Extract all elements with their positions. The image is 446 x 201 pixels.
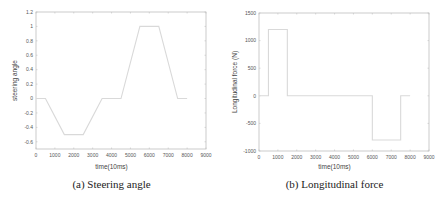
figure-caption-a: (a) Steering angle <box>0 178 223 190</box>
x-tick-label: 5000 <box>348 154 359 160</box>
y-tick-label: 1500 <box>245 10 256 16</box>
x-tick-label: 0 <box>258 154 261 160</box>
x-tick-label: 3000 <box>310 154 321 160</box>
y-tick-label: 1.2 <box>26 9 33 15</box>
x-tick-label: 4000 <box>329 154 340 160</box>
x-tick-label: 8000 <box>405 154 416 160</box>
y-tick-label: -0.6 <box>24 139 33 145</box>
x-tick-label: 2000 <box>291 154 302 160</box>
x-tick-label: 9000 <box>423 154 434 160</box>
chart-panel-steering-angle: 0100020003000400050006000700080009000-0.… <box>0 0 223 201</box>
y-tick-label: 0.4 <box>26 66 33 72</box>
y-axis-label: steering angle <box>11 60 19 101</box>
x-tick-label: 1000 <box>49 152 60 158</box>
x-tick-label: 1000 <box>272 154 283 160</box>
y-axis-label: Longitudinal force (N) <box>231 51 239 113</box>
x-axis-label: time(10ms) <box>223 163 446 170</box>
y-tick-label: 0 <box>30 95 33 101</box>
longitudinal-force-plot: 0100020003000400050006000700080009000-10… <box>223 0 446 201</box>
y-tick-label: -0.2 <box>24 110 33 116</box>
figure-caption-b: (b) Longitudinal force <box>223 178 446 190</box>
chart-panel-longitudinal-force: 0100020003000400050006000700080009000-10… <box>223 0 446 201</box>
data-series-line <box>36 26 187 134</box>
y-tick-label: 0 <box>253 93 256 99</box>
y-tick-label: 500 <box>248 65 257 71</box>
steering-angle-plot: 0100020003000400050006000700080009000-0.… <box>0 0 223 201</box>
y-tick-label: 0.6 <box>26 52 33 58</box>
x-tick-label: 2000 <box>68 152 79 158</box>
x-tick-label: 5000 <box>125 152 136 158</box>
x-tick-label: 4000 <box>106 152 117 158</box>
y-tick-label: 0.2 <box>26 81 33 87</box>
x-tick-label: 7000 <box>386 154 397 160</box>
plot-frame <box>259 13 429 151</box>
x-tick-label: 6000 <box>367 154 378 160</box>
x-tick-label: 6000 <box>144 152 155 158</box>
data-series-line <box>259 30 410 140</box>
y-tick-label: 1000 <box>245 37 256 43</box>
x-tick-label: 0 <box>35 152 38 158</box>
y-tick-label: -500 <box>246 120 256 126</box>
y-tick-label: -0.4 <box>24 124 33 130</box>
x-axis-label: time(10ms) <box>0 163 223 170</box>
y-tick-label: 0.8 <box>26 38 33 44</box>
y-tick-label: -1000 <box>243 148 256 154</box>
y-tick-label: 1 <box>30 23 33 29</box>
x-tick-label: 9000 <box>200 152 211 158</box>
x-tick-label: 7000 <box>163 152 174 158</box>
x-tick-label: 3000 <box>87 152 98 158</box>
x-tick-label: 8000 <box>182 152 193 158</box>
